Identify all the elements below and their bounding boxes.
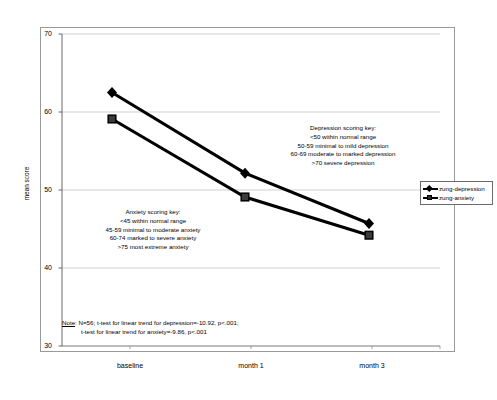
note-line-1: Note: N=56; t-test for linear trend for … [62,318,239,327]
marker-anxiety-month1 [241,193,249,201]
depression-key-line-2: 50-59 minimal to mild depression [248,142,438,151]
legend-item-zung-anxiety[interactable]: zung-anxiety [421,193,492,202]
legend-label-zung-depression: zung-depression [439,185,485,192]
legend-item-zung-depression[interactable]: zung-depression [421,184,492,193]
anxiety-key-line-4: >75 most extreme anxiety [58,243,248,252]
x-tick-label-baseline: baseline [90,362,170,369]
legend-label-zung-anxiety: zung-anxiety [439,194,474,201]
y-tick-label-50: 50 [30,186,52,193]
note-label: Note [62,319,75,326]
anxiety-key-line-1: <45 within normal range [58,217,248,226]
y-tick-label-40: 40 [30,264,52,271]
y-tick-label-30: 30 [30,342,52,349]
anxiety-key-title: Anxiety scoring key: [58,208,248,217]
marker-depression-month3 [364,218,374,229]
marker-anxiety-month3 [365,231,373,239]
diamond-marker-icon [422,184,439,193]
anxiety-key-line-2: 45-59 minimal to moderate anxiety [58,226,248,235]
annotation-note: Note: N=56; t-test for linear trend for … [62,318,239,337]
marker-anxiety-baseline [108,115,116,123]
legend: zung-depression zung-anxiety [420,181,493,205]
chart-figure: 70 60 50 40 30 mean score baseline month… [0,0,497,400]
depression-key-title: Depression scoring key: [248,124,438,133]
y-tick-label-60: 60 [30,108,52,115]
x-tick-label-month3: month 3 [332,362,412,369]
note-line-1-text: : N=56; t-test for linear trend for depr… [75,319,239,326]
x-tick-label-month1: month 1 [211,362,291,369]
annotation-anxiety-key: Anxiety scoring key: <45 within normal r… [58,208,248,252]
note-line-2: t-test for linear trend for anxiety=-9.8… [62,327,239,336]
y-tick-label-70: 70 [30,30,52,37]
y-axis-title: mean score [23,154,30,214]
square-marker-icon [422,193,439,202]
annotation-depression-key: Depression scoring key: <50 within norma… [248,124,438,168]
depression-key-line-4: >70 severe depression [248,159,438,168]
depression-key-line-1: <50 within normal range [248,133,438,142]
anxiety-key-line-3: 60-74 marked to severe anxiety [58,234,248,243]
depression-key-line-3: 60-69 moderate to marked depression [248,150,438,159]
